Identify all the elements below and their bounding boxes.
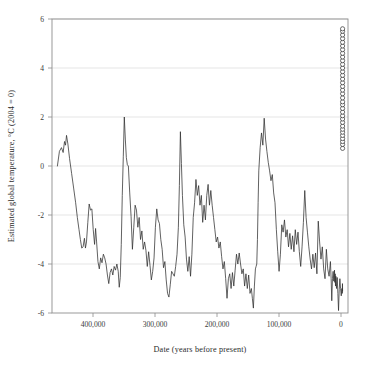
x-axis-title: Date (years before present) [154,345,247,354]
y-tick-label-5: -4 [38,260,45,269]
x-tickmarks [93,313,341,317]
projection-circles-group [340,27,344,151]
y-tick-label-0: 6 [40,15,44,24]
chart-figure: 6 4 2 0 -2 -4 -6 400,000 300,000 200,000… [0,0,365,369]
y-tickmarks [48,19,52,313]
x-tick-label-2: 200,000 [205,320,230,329]
gridlines [52,19,348,264]
y-tick-label-6: -6 [38,309,45,318]
projection-circle [340,96,344,100]
temperature-line-chart: 6 4 2 0 -2 -4 -6 400,000 300,000 200,000… [0,0,365,369]
y-tick-label-3: 0 [40,162,44,171]
x-tick-label-0: 400,000 [81,320,106,329]
y-axis-title: Estimated global temperature, °C (2004 =… [7,90,16,242]
y-tick-label-1: 4 [40,64,44,73]
x-tick-label-4: 0 [339,320,343,329]
y-tick-label-2: 2 [40,113,44,122]
temperature-series-line [57,117,342,311]
x-tick-label-1: 300,000 [143,320,168,329]
y-tick-label-4: -2 [38,211,45,220]
x-tick-label-3: 100,000 [267,320,292,329]
projection-circle [340,27,344,31]
projection-circle [340,146,344,150]
x-tick-labels: 400,000 300,000 200,000 100,000 0 [81,320,343,329]
y-tick-labels: 6 4 2 0 -2 -4 -6 [38,15,45,318]
